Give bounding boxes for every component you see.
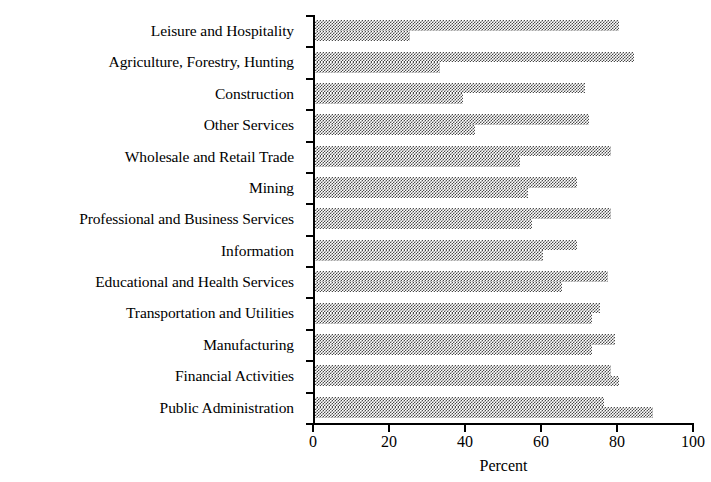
x-axis-tick-mark — [388, 425, 390, 432]
x-axis-tick-mark — [312, 425, 314, 432]
y-axis-tick-label: Leisure and Hospitality — [0, 15, 303, 46]
bar-group — [315, 141, 693, 172]
bar — [315, 282, 562, 293]
y-axis-tick-mark — [306, 266, 314, 268]
category-label: Information — [221, 243, 294, 259]
bar-group — [315, 266, 693, 297]
x-axis-tick-mark — [692, 425, 694, 432]
y-axis-tick-label: Financial Activities — [0, 360, 303, 391]
category-label: Agriculture, Forestry, Hunting — [109, 54, 294, 70]
bar — [315, 376, 619, 387]
bar-group — [315, 78, 693, 109]
category-label: Construction — [215, 86, 294, 102]
y-axis-tick-label: Mining — [0, 172, 303, 203]
bar-group — [315, 392, 693, 423]
bar-group — [315, 297, 693, 328]
category-label: Wholesale and Retail Trade — [125, 149, 294, 165]
category-label: Public Administration — [160, 400, 294, 416]
x-axis-tick-label: 100 — [681, 434, 705, 450]
bar — [315, 345, 592, 356]
bar-group — [315, 46, 693, 77]
x-axis-title: Percent — [313, 458, 694, 474]
bar — [315, 20, 619, 31]
x-axis-line — [313, 423, 694, 425]
bar — [315, 52, 634, 63]
y-axis-tick-mark — [306, 297, 314, 299]
bar-chart: Leisure and HospitalityAgriculture, Fore… — [0, 0, 711, 482]
y-axis-tick-mark — [306, 78, 314, 80]
y-axis-tick-label: Manufacturing — [0, 329, 303, 360]
y-axis-tick-mark — [306, 109, 314, 111]
bar — [315, 62, 440, 73]
y-axis-tick-label: Information — [0, 235, 303, 266]
bar-group — [315, 329, 693, 360]
bar — [315, 313, 592, 324]
plot-area — [313, 15, 693, 423]
bar — [315, 188, 528, 199]
category-label: Transportation and Utilities — [126, 305, 294, 321]
y-axis-tick-mark — [306, 46, 314, 48]
bar — [315, 250, 543, 261]
x-axis-tick-label: 80 — [609, 434, 625, 450]
y-axis-tick-mark — [306, 360, 314, 362]
bar — [315, 83, 585, 94]
category-label: Mining — [249, 180, 294, 196]
category-label: Leisure and Hospitality — [151, 23, 294, 39]
bar — [315, 365, 611, 376]
category-label: Manufacturing — [203, 337, 294, 353]
bar — [315, 156, 520, 167]
bar — [315, 219, 532, 230]
x-axis-tick-label: 40 — [457, 434, 473, 450]
y-axis-tick-label: Agriculture, Forestry, Hunting — [0, 46, 303, 77]
x-axis-tick-label: 0 — [309, 434, 317, 450]
y-axis-tick-label: Wholesale and Retail Trade — [0, 141, 303, 172]
category-label: Other Services — [204, 117, 294, 133]
x-axis-tick-mark — [616, 425, 618, 432]
bar — [315, 240, 577, 251]
category-label: Financial Activities — [175, 368, 294, 384]
bar — [315, 208, 611, 219]
y-axis-tick-mark — [306, 141, 314, 143]
bar — [315, 31, 410, 42]
bar-group — [315, 203, 693, 234]
y-axis-tick-mark — [306, 203, 314, 205]
bar-group — [315, 172, 693, 203]
x-axis-tick-mark — [540, 425, 542, 432]
bar — [315, 397, 604, 408]
category-label: Professional and Business Services — [79, 211, 294, 227]
y-axis-tick-mark — [306, 235, 314, 237]
y-axis-tick-mark — [306, 15, 314, 17]
y-axis-tick-label: Construction — [0, 78, 303, 109]
x-axis-tick-label: 20 — [381, 434, 397, 450]
bar-group — [315, 235, 693, 266]
y-axis-tick-mark — [306, 329, 314, 331]
y-axis-category-labels: Leisure and HospitalityAgriculture, Fore… — [0, 15, 303, 423]
y-axis-tick-label: Professional and Business Services — [0, 203, 303, 234]
y-axis-tick-label: Other Services — [0, 109, 303, 140]
y-axis-tick-mark — [306, 172, 314, 174]
bar — [315, 271, 608, 282]
bar — [315, 303, 600, 314]
y-axis-tick-label: Transportation and Utilities — [0, 298, 303, 329]
bar — [315, 125, 475, 136]
bar — [315, 334, 615, 345]
category-label: Educational and Health Services — [95, 274, 294, 290]
bar-group — [315, 360, 693, 391]
y-axis-tick-mark — [306, 392, 314, 394]
x-axis-tick-label: 60 — [533, 434, 549, 450]
bar — [315, 146, 611, 157]
x-axis-tick-mark — [464, 425, 466, 432]
bar — [315, 114, 589, 125]
bar — [315, 93, 463, 104]
bar — [315, 407, 653, 418]
bar-group — [315, 109, 693, 140]
bar-group — [315, 15, 693, 46]
bar — [315, 177, 577, 188]
y-axis-tick-label: Public Administration — [0, 392, 303, 423]
y-axis-tick-label: Educational and Health Services — [0, 266, 303, 297]
